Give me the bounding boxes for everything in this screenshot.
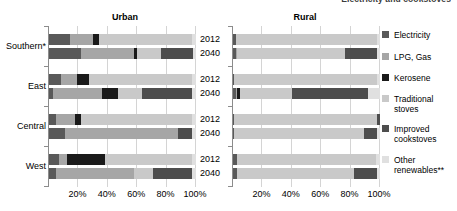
year-label: 2012 [200, 74, 228, 84]
stacked-bar[interactable] [49, 74, 196, 85]
bar-segment [49, 48, 81, 59]
region-label: East [0, 81, 46, 91]
year-label: 2012 [200, 34, 228, 44]
year-label: 2040 [200, 128, 228, 138]
bar-segment [368, 88, 380, 99]
bar-segment [192, 168, 196, 179]
plot-panel-urban [48, 26, 195, 187]
category-group-tick [44, 66, 48, 67]
bar-segment [237, 168, 353, 179]
year-label: 2040 [200, 48, 228, 58]
stacked-bar[interactable] [49, 128, 196, 139]
region-label: Southern* [0, 41, 46, 51]
stacked-bar[interactable] [49, 114, 196, 125]
bar-segment [345, 48, 377, 59]
bar-segment [49, 114, 56, 125]
bar-segment [134, 168, 153, 179]
bar-segment [118, 88, 142, 99]
bar-segment [142, 88, 192, 99]
bar-segment [105, 154, 192, 165]
bar-segment [49, 154, 59, 165]
x-tick-label: 100% [362, 189, 396, 199]
year-label: 2040 [200, 88, 228, 98]
bar-segment [192, 88, 196, 99]
stacked-bar[interactable] [49, 88, 196, 99]
category-group-tick [228, 26, 232, 27]
plot-panel-rural [232, 26, 379, 187]
bar-segment [354, 168, 378, 179]
category-group-tick [44, 186, 48, 187]
legend-swatch-icon [382, 53, 389, 60]
legend-label: Electricity [394, 30, 430, 40]
bar-segment [49, 34, 70, 45]
chart-figure: Electricity and cookstoves Urban Rural S… [0, 0, 457, 211]
bar-segment [377, 34, 380, 45]
panel-title-rural: Rural [265, 12, 345, 22]
legend-item[interactable]: Kerosene [382, 73, 430, 83]
stacked-bar[interactable] [233, 48, 380, 59]
bar-segment [236, 34, 377, 45]
region-label: Central [0, 121, 46, 131]
bar-segment [234, 128, 363, 139]
bar-segment [56, 114, 75, 125]
bar-segment [59, 154, 66, 165]
bar-segment [153, 168, 191, 179]
year-label: 2040 [200, 168, 228, 178]
stacked-bar[interactable] [233, 114, 380, 125]
bar-segment [99, 34, 192, 45]
bar-segment [49, 74, 61, 85]
bar-segment [234, 114, 377, 125]
legend-item[interactable]: Improved cookstoves [382, 124, 437, 144]
stacked-bar[interactable] [233, 88, 380, 99]
year-label: 2012 [200, 154, 228, 164]
stacked-bar[interactable] [49, 168, 196, 179]
x-tick-label: 100% [178, 189, 212, 199]
stacked-bar[interactable] [233, 34, 380, 45]
legend-label: Improved cookstoves [394, 124, 437, 144]
stacked-bar[interactable] [233, 74, 380, 85]
legend-label: Other renewables** [394, 155, 444, 175]
stacked-bar[interactable] [233, 154, 380, 165]
bar-segment [377, 128, 380, 139]
stacked-bar[interactable] [49, 48, 196, 59]
plot-area-urban [48, 26, 195, 187]
bar-segment [237, 154, 375, 165]
bar-segment [77, 74, 89, 85]
bar-segment [377, 48, 380, 59]
bar-segment [192, 34, 196, 45]
bar-segment [234, 74, 377, 85]
bar-segment [377, 114, 380, 125]
bar-segment [70, 34, 94, 45]
figure-top-caption: Electricity and cookstoves [341, 0, 451, 4]
bar-segment [240, 88, 291, 99]
stacked-bar[interactable] [49, 34, 196, 45]
year-label: 2012 [200, 114, 228, 124]
bar-segment [377, 168, 380, 179]
legend-label: Kerosene [394, 73, 430, 83]
bar-segment [49, 128, 65, 139]
legend-swatch-icon [382, 31, 389, 38]
bar-segment [237, 48, 344, 59]
stacked-bar[interactable] [49, 154, 196, 165]
legend-item[interactable]: LPG, Gas [382, 52, 431, 62]
bar-segment [192, 114, 196, 125]
category-group-tick [44, 106, 48, 107]
category-group-tick [228, 66, 232, 67]
bar-segment [292, 88, 368, 99]
legend-item[interactable]: Electricity [382, 30, 430, 40]
bar-segment [193, 48, 196, 59]
bar-segment [61, 74, 77, 85]
bar-segment [376, 154, 380, 165]
bar-segment [102, 88, 118, 99]
legend-label: LPG, Gas [394, 52, 431, 62]
bar-segment [137, 48, 161, 59]
category-group-tick [228, 106, 232, 107]
legend-swatch-icon [382, 156, 389, 163]
legend-item[interactable]: Traditional stoves [382, 94, 433, 114]
stacked-bar[interactable] [233, 128, 380, 139]
bar-segment [81, 114, 191, 125]
legend-swatch-icon [382, 125, 389, 132]
legend-item[interactable]: Other renewables** [382, 155, 444, 175]
bar-segment [49, 168, 56, 179]
stacked-bar[interactable] [233, 168, 380, 179]
